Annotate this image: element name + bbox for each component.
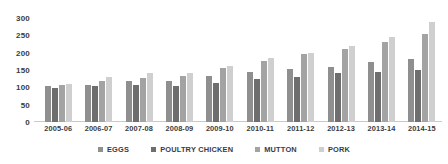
bar[interactable] [213,83,219,122]
bar[interactable] [287,69,293,122]
x-axis-tick: 2011-12 [280,124,320,138]
x-axis-tick: 2005-06 [38,124,78,138]
legend-item[interactable]: PORK [319,145,350,154]
legend-swatch-icon [319,147,324,152]
legend-item[interactable]: MUTTON [255,145,297,154]
bar-groups [38,18,442,122]
legend-label: EGGS [107,145,129,154]
bar[interactable] [166,81,172,122]
bar[interactable] [52,88,58,122]
bar[interactable] [368,62,374,122]
bar[interactable] [92,86,98,122]
x-axis-tick: 2012-13 [321,124,361,138]
bar[interactable] [375,72,381,122]
bar-group [119,18,159,122]
bar-group [78,18,118,122]
y-axis-tick: 100 [16,83,30,92]
legend-swatch-icon [151,147,156,152]
x-axis: 2005-062006-072007-082008-092009-102010-… [38,124,442,138]
y-axis-tick: 50 [21,100,30,109]
bar[interactable] [227,66,233,123]
bar[interactable] [206,76,212,122]
bar-group [280,18,320,122]
x-axis-tick: 2007-08 [119,124,159,138]
y-axis-tick: 200 [16,48,30,57]
bar[interactable] [429,22,435,122]
x-axis-tick: 2010-11 [240,124,280,138]
bar[interactable] [187,73,193,122]
bar[interactable] [422,34,428,122]
x-axis-tick: 2013-14 [361,124,401,138]
bar[interactable] [382,42,388,122]
plot-area [38,18,442,122]
bar[interactable] [254,79,260,122]
y-axis-tick: 150 [16,66,30,75]
bar[interactable] [308,53,314,122]
x-axis-tick: 2014-15 [402,124,442,138]
chart-legend: EGGSPOULTRY CHICKENMUTTONPORK [0,142,448,156]
bar[interactable] [133,85,139,122]
bar-group [240,18,280,122]
bar-group [38,18,78,122]
bar[interactable] [140,78,146,122]
bar-group [402,18,442,122]
legend-swatch-icon [255,147,260,152]
bar-group [321,18,361,122]
bar-group [200,18,240,122]
legend-label: PORK [328,145,350,154]
bar[interactable] [408,59,414,122]
bar[interactable] [415,70,421,122]
bar[interactable] [106,77,112,122]
bar[interactable] [294,77,300,122]
y-axis-tick: 250 [16,31,30,40]
bar[interactable] [59,85,65,122]
legend-item[interactable]: EGGS [98,145,129,154]
x-axis-tick: 2008-09 [159,124,199,138]
legend-label: MUTTON [264,145,297,154]
bar[interactable] [99,81,105,122]
bar[interactable] [349,46,355,122]
bar[interactable] [389,37,395,122]
bar[interactable] [45,86,51,122]
bar[interactable] [180,76,186,122]
legend-label: POULTRY CHICKEN [160,145,233,154]
legend-swatch-icon [98,147,103,152]
bar-chart: 300250200150100500 2005-062006-072007-08… [0,0,448,164]
bar[interactable] [335,73,341,122]
bar[interactable] [220,68,226,122]
bar-group [361,18,401,122]
x-axis-tick: 2006-07 [78,124,118,138]
bar[interactable] [301,54,307,122]
bar[interactable] [342,49,348,122]
bar[interactable] [147,73,153,122]
legend-item[interactable]: POULTRY CHICKEN [151,145,233,154]
bar[interactable] [268,58,274,122]
bar[interactable] [85,85,91,122]
bar[interactable] [261,61,267,122]
bar[interactable] [126,81,132,122]
y-axis-tick: 300 [16,14,30,23]
y-axis-tick: 0 [25,118,30,127]
bar[interactable] [66,84,72,122]
bar[interactable] [173,86,179,122]
bar-group [159,18,199,122]
x-axis-tick: 2009-10 [200,124,240,138]
bar[interactable] [247,72,253,122]
y-axis: 300250200150100500 [0,12,34,128]
bar[interactable] [328,67,334,122]
